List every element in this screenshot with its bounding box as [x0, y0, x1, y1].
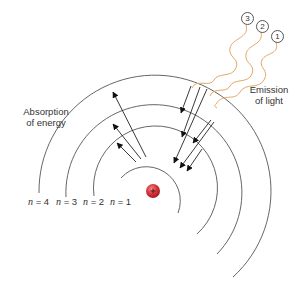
emission-arrow-4-to-3	[181, 86, 191, 113]
bohr-atom-diagram	[0, 0, 298, 294]
absorption-label-line1: Absorption	[16, 106, 76, 117]
level-label-n2: n = 2	[83, 196, 104, 207]
emission-label-line2: of light	[244, 95, 294, 106]
level-label-n4: n = 4	[28, 196, 49, 207]
orbit-n3	[66, 105, 242, 254]
arrow-1-to-2	[117, 143, 136, 162]
level-label-n1: n = 1	[110, 196, 131, 207]
emission-arrow-4-to-2	[182, 87, 200, 137]
emission-label-line1: Emission	[244, 84, 294, 95]
emission-arrow-4-to-1	[174, 89, 207, 163]
absorption-label-line2: of energy	[16, 117, 76, 128]
arrow-1-to-4	[113, 92, 146, 157]
photon-label-2: 2	[256, 20, 269, 33]
photon-label-1: 1	[271, 30, 284, 43]
nucleus	[146, 184, 160, 198]
level-label-n3: n = 3	[56, 196, 77, 207]
emission-arrow-3-to-2b	[193, 120, 211, 143]
absorption-label: Absorption of energy	[16, 106, 76, 128]
photon-label-3: 3	[241, 12, 254, 25]
emission-label: Emission of light	[244, 84, 294, 106]
absorption-arrows	[113, 92, 146, 162]
emission-arrows	[174, 86, 214, 171]
photon-3-wave	[192, 25, 247, 88]
emission-arrow-2-to-1	[187, 149, 202, 171]
